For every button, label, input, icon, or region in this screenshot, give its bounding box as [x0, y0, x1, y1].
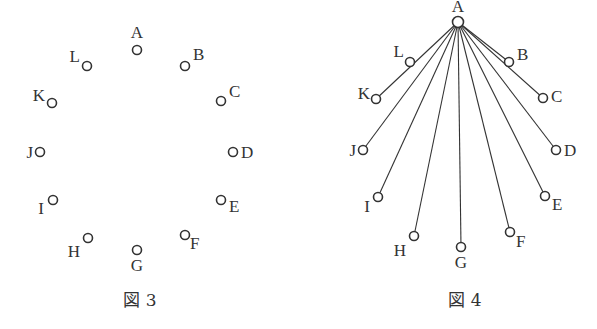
node-label-c: C	[229, 82, 240, 101]
node-label-b: B	[193, 45, 204, 64]
node-i	[49, 196, 58, 205]
node-g	[133, 246, 142, 255]
edge-a-g	[458, 22, 461, 247]
edge-a-c	[458, 22, 543, 98]
node-label-h: H	[68, 242, 80, 261]
node-label-g: G	[131, 256, 143, 275]
figure-3-nodes: ABCDEFGHIJKL	[26, 23, 253, 275]
figure-4-caption: 図 4	[448, 290, 481, 310]
node-label-f: F	[190, 234, 199, 253]
edge-a-j	[363, 22, 458, 150]
node-c	[217, 97, 226, 106]
node-label-d: D	[241, 143, 253, 162]
node-label-j: J	[349, 141, 356, 160]
node-label-l: L	[394, 42, 404, 61]
figure-4: ABCDEFGHIJKL 図 4	[349, 0, 576, 310]
edge-a-i	[378, 22, 458, 197]
node-f	[506, 228, 515, 237]
node-d	[229, 148, 238, 157]
node-a	[453, 17, 464, 28]
diagram-canvas: ABCDEFGHIJKL 図 3 ABCDEFGHIJKL 図 4	[0, 0, 597, 329]
node-label-a: A	[131, 23, 144, 42]
node-label-f: F	[516, 232, 525, 251]
node-label-g: G	[455, 253, 467, 272]
node-b	[505, 58, 514, 67]
node-c	[539, 94, 548, 103]
node-a	[133, 46, 142, 55]
node-k	[48, 99, 57, 108]
edge-a-e	[458, 22, 545, 196]
figure-3: ABCDEFGHIJKL 図 3	[26, 23, 253, 310]
node-b	[181, 62, 190, 71]
node-label-k: K	[33, 86, 46, 105]
node-label-c: C	[551, 87, 562, 106]
node-e	[217, 196, 226, 205]
node-label-d: D	[564, 141, 576, 160]
node-g	[457, 243, 466, 252]
edge-a-k	[376, 22, 458, 99]
node-label-a: A	[452, 0, 465, 16]
node-l	[406, 58, 415, 67]
node-label-i: I	[38, 199, 44, 218]
node-e	[541, 192, 550, 201]
node-f	[181, 231, 190, 240]
node-label-k: K	[358, 84, 371, 103]
node-label-e: E	[229, 197, 239, 216]
node-h	[410, 232, 419, 241]
node-label-j: J	[26, 143, 33, 162]
edge-a-d	[458, 22, 556, 150]
node-label-i: I	[364, 197, 370, 216]
node-l	[83, 62, 92, 71]
node-label-e: E	[552, 195, 562, 214]
node-label-b: B	[517, 45, 528, 64]
edge-a-h	[414, 22, 458, 236]
edge-a-f	[458, 22, 510, 232]
node-label-l: L	[70, 47, 80, 66]
node-j	[359, 146, 368, 155]
node-j	[36, 148, 45, 157]
node-label-h: H	[394, 241, 406, 260]
node-k	[372, 95, 381, 104]
node-h	[84, 234, 93, 243]
node-i	[374, 193, 383, 202]
node-d	[552, 146, 561, 155]
figure-3-caption: 図 3	[123, 290, 156, 310]
